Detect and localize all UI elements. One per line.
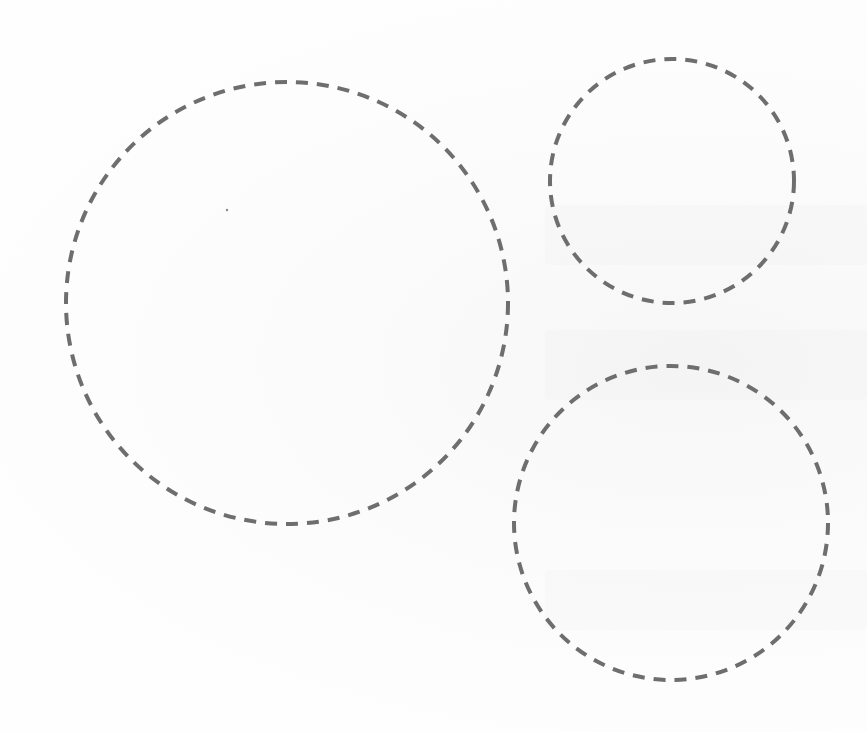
medium-bottom-right-dashed-circle	[514, 366, 828, 680]
diagram-canvas	[0, 0, 867, 732]
speck-dot	[226, 209, 228, 211]
dashed-circles-diagram	[0, 0, 867, 732]
large-dashed-circle	[66, 82, 508, 524]
small-top-right-dashed-circle	[550, 59, 794, 303]
